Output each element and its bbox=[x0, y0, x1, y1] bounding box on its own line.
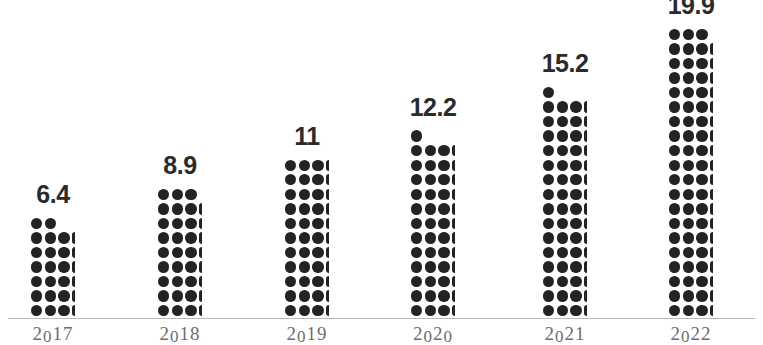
bar-partial-row bbox=[669, 27, 713, 42]
bar-value-label-2020: 12.2 bbox=[371, 95, 495, 120]
bar-2018 bbox=[158, 187, 202, 318]
bar-dot bbox=[557, 305, 568, 316]
bar-dot-row bbox=[411, 187, 455, 202]
bar-dot bbox=[312, 218, 323, 229]
bar-dot bbox=[710, 87, 713, 98]
bar-dot bbox=[710, 203, 713, 214]
bar-dot bbox=[669, 116, 680, 127]
bar-dot-row bbox=[543, 289, 587, 304]
bar-dot bbox=[411, 305, 422, 316]
bar-dot bbox=[696, 290, 707, 301]
bar-dot bbox=[72, 232, 75, 243]
bar-dot-row bbox=[31, 245, 75, 260]
bar-dot bbox=[326, 247, 329, 258]
bar-dot bbox=[411, 130, 422, 141]
bar-dot bbox=[199, 218, 202, 229]
bar-dot-row bbox=[158, 202, 202, 217]
bar-group-2019: 11 bbox=[245, 0, 369, 318]
bar-dot bbox=[557, 116, 568, 127]
bar-dot bbox=[45, 247, 56, 258]
bar-dot bbox=[172, 261, 183, 272]
bar-dot bbox=[438, 247, 449, 258]
bar-dot bbox=[683, 29, 694, 40]
bar-dot bbox=[438, 145, 449, 156]
bar-dot bbox=[584, 232, 587, 243]
bar-dot bbox=[299, 290, 310, 301]
bar-dot bbox=[452, 261, 455, 272]
bar-dot bbox=[312, 247, 323, 258]
bar-dot bbox=[58, 305, 69, 316]
bar-dot bbox=[172, 305, 183, 316]
bar-group-2018: 8.9 bbox=[118, 0, 242, 318]
bar-dot bbox=[683, 247, 694, 258]
bar-dot bbox=[543, 290, 554, 301]
bar-dot bbox=[669, 218, 680, 229]
bar-dot-row bbox=[669, 187, 713, 202]
bar-dot bbox=[557, 232, 568, 243]
bar-dot bbox=[158, 261, 169, 272]
bar-dot bbox=[438, 203, 449, 214]
bar-dot bbox=[696, 189, 707, 200]
bar-dot-row bbox=[669, 274, 713, 289]
bar-dot bbox=[438, 218, 449, 229]
bar-dot bbox=[158, 276, 169, 287]
bar-dot bbox=[326, 218, 329, 229]
bar-dot-row bbox=[31, 231, 75, 246]
bar-dot bbox=[584, 218, 587, 229]
bar-dot bbox=[669, 58, 680, 69]
bar-dot bbox=[669, 305, 680, 316]
bar-partial-row bbox=[31, 216, 75, 231]
bar-dot bbox=[669, 261, 680, 272]
bar-dot-row bbox=[543, 202, 587, 217]
bar-dot-row bbox=[411, 274, 455, 289]
bar-2019 bbox=[285, 158, 329, 318]
bar-dot bbox=[557, 160, 568, 171]
bar-dot bbox=[570, 305, 581, 316]
bar-dot bbox=[425, 189, 436, 200]
bar-dot bbox=[299, 232, 310, 243]
bar-dot bbox=[696, 174, 707, 185]
bar-dot-row bbox=[669, 172, 713, 187]
bar-dot bbox=[710, 174, 713, 185]
bar-dot-row bbox=[285, 202, 329, 217]
bar-dot bbox=[172, 232, 183, 243]
bar-dot bbox=[299, 174, 310, 185]
bar-dot bbox=[669, 232, 680, 243]
bar-dot-row bbox=[669, 56, 713, 71]
bar-dot bbox=[326, 203, 329, 214]
bar-dot-row bbox=[158, 289, 202, 304]
bar-dot bbox=[31, 261, 42, 272]
bar-2020 bbox=[411, 129, 455, 318]
bar-dot bbox=[45, 218, 56, 229]
bar-dot bbox=[158, 305, 169, 316]
bar-dot bbox=[72, 276, 75, 287]
bar-dot bbox=[570, 247, 581, 258]
bar-dot bbox=[452, 189, 455, 200]
bar-dot-row bbox=[411, 158, 455, 173]
bar-dot bbox=[683, 290, 694, 301]
bar-dot bbox=[411, 145, 422, 156]
bar-dot bbox=[199, 203, 202, 214]
bar-dot bbox=[285, 261, 296, 272]
bar-dot-row bbox=[285, 158, 329, 173]
bar-dot bbox=[683, 218, 694, 229]
bar-dot bbox=[326, 290, 329, 301]
bar-dot bbox=[557, 290, 568, 301]
bar-dot bbox=[326, 160, 329, 171]
bar-dot bbox=[710, 232, 713, 243]
chart-plot-area: 6.48.91112.215.219.9 bbox=[0, 0, 763, 318]
bar-dot bbox=[710, 189, 713, 200]
bar-dot bbox=[58, 261, 69, 272]
bar-dot bbox=[452, 290, 455, 301]
bar-dot bbox=[72, 247, 75, 258]
bar-dot bbox=[299, 203, 310, 214]
bar-dot bbox=[543, 160, 554, 171]
bar-dot bbox=[584, 174, 587, 185]
bar-dot bbox=[543, 189, 554, 200]
bar-dot bbox=[669, 87, 680, 98]
bar-dot-row bbox=[285, 289, 329, 304]
x-axis-label-2022: 2022 bbox=[629, 323, 753, 345]
bar-dot-row bbox=[285, 231, 329, 246]
bar-value-label-2018: 8.9 bbox=[118, 153, 242, 178]
bar-dot-row bbox=[158, 303, 202, 318]
